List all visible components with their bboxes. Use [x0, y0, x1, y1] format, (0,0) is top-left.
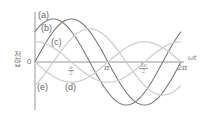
curve-label-e: (e)	[37, 83, 48, 92]
x-axis-label: ωt	[188, 55, 197, 62]
y-axis-label: 전 압	[13, 52, 22, 68]
curve-label-a: (a)	[38, 11, 49, 20]
curve-label-c: (c)	[51, 38, 62, 47]
tick-pi: π	[104, 64, 109, 72]
waveform-diagram: 전 압 0 (a) (b) (c) (d) (e) π 2 π 3π 2 2π …	[0, 0, 206, 115]
curve-label-b: (b)	[41, 24, 52, 33]
tick-half-pi-den: 2	[69, 70, 72, 76]
tick-three-half-pi: 3π 2	[138, 63, 149, 74]
curve-label-d: (d)	[65, 83, 76, 92]
tick-three-half-pi-den: 2	[142, 68, 145, 74]
tick-two-pi: 2π	[177, 64, 187, 72]
tick-half-pi: π 2	[67, 65, 75, 76]
origin-label: 0	[27, 58, 31, 66]
y-axis-label-line2: 압	[13, 60, 22, 68]
